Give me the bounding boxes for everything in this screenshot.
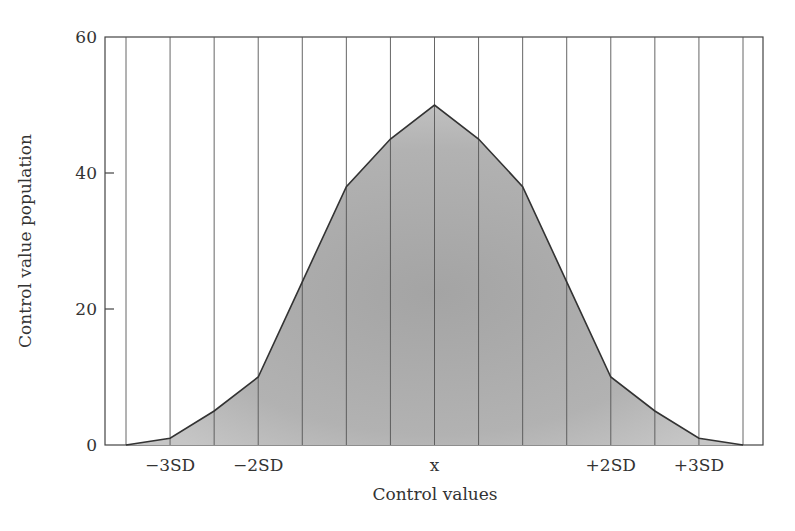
x-tick-label: −2SD (233, 455, 283, 475)
plot-area: 0204060 −3SD−2SDx+2SD+3SD (75, 27, 763, 475)
y-tick-label: 60 (75, 27, 97, 47)
chart: 0204060 −3SD−2SDx+2SD+3SD Control values… (0, 0, 795, 531)
x-axis-tick-labels: −3SD−2SDx+2SD+3SD (145, 455, 724, 475)
x-tick-label: +3SD (674, 455, 724, 475)
x-tick-label: x (430, 455, 440, 475)
x-tick-label: +2SD (586, 455, 636, 475)
y-tick-label: 0 (86, 435, 97, 455)
y-axis-title: Control value population (15, 134, 35, 348)
y-tick-label: 40 (75, 163, 97, 183)
x-tick-label: −3SD (145, 455, 195, 475)
y-tick-label: 20 (75, 299, 97, 319)
x-axis-title: Control values (372, 484, 497, 504)
